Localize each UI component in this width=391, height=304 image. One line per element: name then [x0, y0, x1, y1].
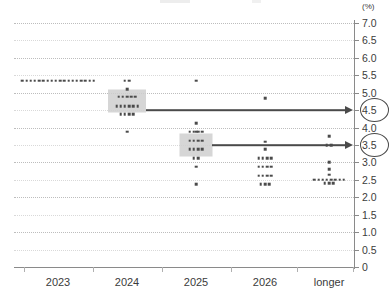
- x-axis-tick: [353, 267, 354, 272]
- dot-marker: [328, 168, 331, 171]
- dot-marker: [197, 140, 200, 143]
- dot-marker: [50, 79, 53, 82]
- dot-marker: [330, 179, 333, 182]
- gridline: [14, 128, 354, 129]
- gridline: [14, 215, 354, 216]
- x-axis-label-2023: 2023: [46, 276, 70, 288]
- dot-marker: [134, 96, 137, 99]
- dot-marker: [197, 157, 200, 160]
- dot-marker: [262, 157, 265, 160]
- gridline: [14, 93, 354, 94]
- x-axis-label-2026: 2026: [253, 276, 277, 288]
- dot-marker: [188, 130, 191, 133]
- y-axis-label: 5.0: [362, 88, 377, 99]
- dot-marker: [326, 179, 329, 182]
- dot-marker: [42, 79, 45, 82]
- dot-marker: [124, 113, 127, 116]
- dot-marker: [193, 148, 196, 151]
- dot-plot-chart: (%) 7.06.56.05.55.04.03.02.52.01.51.00.5…: [0, 0, 391, 304]
- dot-marker: [115, 105, 118, 108]
- dot-marker: [128, 79, 131, 82]
- dot-marker: [119, 113, 122, 116]
- dot-marker: [195, 79, 198, 82]
- gridline: [14, 58, 354, 59]
- dot-marker: [122, 96, 125, 99]
- dot-marker: [270, 157, 273, 160]
- dot-marker: [84, 79, 87, 82]
- dot-marker: [197, 148, 200, 151]
- dot-marker: [264, 140, 267, 143]
- x-axis-tick: [93, 267, 94, 272]
- dot-marker: [201, 130, 204, 133]
- gridline: [14, 75, 354, 76]
- dot-marker: [257, 165, 260, 168]
- gridline: [14, 197, 354, 198]
- median-callout-label-3.5: 3.5: [362, 139, 377, 151]
- dot-marker: [132, 105, 135, 108]
- dot-marker: [317, 179, 320, 182]
- dot-marker: [128, 113, 131, 116]
- dot-marker: [88, 79, 91, 82]
- dot-marker: [195, 183, 198, 186]
- dot-marker: [76, 79, 79, 82]
- dot-marker: [119, 105, 122, 108]
- dot-marker: [128, 105, 131, 108]
- dot-marker: [201, 148, 204, 151]
- y-axis-label: 2.0: [362, 192, 377, 203]
- dot-marker: [257, 157, 260, 160]
- dot-marker: [328, 173, 331, 176]
- dot-marker: [342, 179, 345, 182]
- dot-marker: [126, 96, 129, 99]
- dot-marker: [126, 130, 129, 133]
- x-axis-tick: [231, 267, 232, 272]
- y-axis-label: 3.0: [362, 157, 377, 168]
- y-axis-label: 1.5: [362, 210, 377, 221]
- dot-marker: [332, 182, 335, 185]
- dot-marker: [195, 122, 198, 125]
- y-axis-label: 0.5: [362, 245, 377, 256]
- dot-marker: [264, 148, 267, 151]
- dot-marker: [266, 165, 269, 168]
- gridline: [14, 23, 354, 24]
- dot-marker: [328, 135, 331, 138]
- x-axis-label-2025: 2025: [184, 276, 208, 288]
- dot-marker: [264, 97, 267, 100]
- dot-marker: [268, 183, 271, 186]
- dot-marker: [201, 140, 204, 143]
- dot-marker: [270, 174, 273, 177]
- dot-marker: [266, 174, 269, 177]
- y-axis-line: [354, 20, 355, 269]
- dot-marker: [59, 79, 62, 82]
- x-axis-line: [14, 267, 355, 268]
- dot-marker: [266, 157, 269, 160]
- y-axis-label: 1.0: [362, 227, 377, 238]
- x-axis-label-2024: 2024: [115, 276, 139, 288]
- dot-marker: [130, 96, 133, 99]
- y-axis-label: 0: [362, 262, 368, 273]
- median-highlight-2025: [180, 134, 213, 157]
- dot-marker: [67, 79, 70, 82]
- arrow-median-2024-line: [146, 109, 346, 111]
- dot-marker: [328, 182, 331, 185]
- dot-marker: [46, 79, 49, 82]
- y-axis-label: 2.5: [362, 175, 377, 186]
- y-axis-label: 7.0: [362, 18, 377, 29]
- dot-marker: [80, 79, 83, 82]
- y-axis-unit-label: (%): [362, 2, 374, 11]
- dot-marker: [262, 165, 265, 168]
- x-axis-tick: [162, 267, 163, 272]
- dot-marker: [55, 79, 58, 82]
- dot-marker: [328, 161, 331, 164]
- arrow-median-2025-head: [345, 141, 353, 149]
- arrow-median-2025-line: [212, 144, 346, 146]
- x-axis-tick: [24, 267, 25, 272]
- median-callout-label-4.5: 4.5: [362, 104, 377, 116]
- dot-marker: [126, 88, 129, 91]
- dot-marker: [270, 165, 273, 168]
- gridline: [14, 40, 354, 41]
- arrow-median-2024-head: [345, 106, 353, 114]
- dot-marker: [188, 140, 191, 143]
- dot-marker: [334, 179, 337, 182]
- gridline: [14, 232, 354, 233]
- dot-marker: [92, 79, 95, 82]
